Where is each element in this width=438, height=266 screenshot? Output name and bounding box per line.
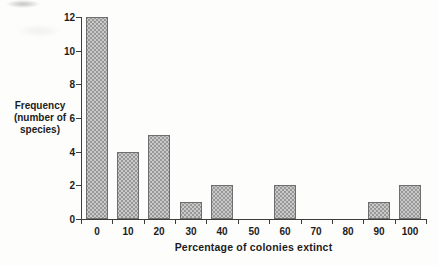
bar-100	[399, 185, 421, 219]
x-tick	[81, 220, 82, 224]
x-tick-label: 60	[270, 226, 300, 237]
bar-60	[274, 185, 296, 219]
y-tick-label: 12	[45, 12, 75, 23]
bar-90	[368, 202, 390, 219]
x-tick-label: 100	[395, 226, 425, 237]
x-tick	[206, 220, 207, 224]
scan-artifact	[16, 24, 62, 38]
x-tick-label: 0	[82, 226, 112, 237]
y-axis-title-line: species)	[2, 124, 78, 136]
y-tick	[76, 51, 81, 52]
x-tick-label: 20	[144, 226, 174, 237]
x-tick-label: 70	[301, 226, 331, 237]
y-tick-label: 4	[45, 147, 75, 158]
bar-0	[86, 17, 108, 219]
y-tick-label: 10	[45, 46, 75, 57]
figure: Frequency (number of species) Percentage…	[0, 0, 438, 266]
y-tick	[76, 84, 81, 85]
x-tick	[332, 220, 333, 224]
bar-30	[180, 202, 202, 219]
y-tick-label: 2	[45, 180, 75, 191]
x-tick	[426, 220, 427, 224]
y-tick	[76, 185, 81, 186]
x-tick	[175, 220, 176, 224]
y-tick	[76, 118, 81, 119]
bar-20	[148, 135, 170, 219]
y-tick	[76, 152, 81, 153]
x-tick	[269, 220, 270, 224]
bar-40	[211, 185, 233, 219]
x-tick	[301, 220, 302, 224]
y-tick-label: 6	[45, 113, 75, 124]
x-tick-label: 10	[113, 226, 143, 237]
y-axis-line	[81, 17, 82, 220]
x-tick-label: 90	[364, 226, 394, 237]
y-tick-label: 0	[45, 214, 75, 225]
y-axis-title-line: Frequency	[2, 100, 78, 112]
scan-artifact	[6, 0, 40, 8]
x-tick-label: 40	[207, 226, 237, 237]
x-tick	[363, 220, 364, 224]
x-tick	[112, 220, 113, 224]
x-tick-label: 50	[239, 226, 269, 237]
x-tick-label: 30	[176, 226, 206, 237]
bar-10	[117, 152, 139, 219]
x-tick-label: 80	[333, 226, 363, 237]
x-axis-title: Percentage of colonies extinct	[81, 241, 426, 253]
x-tick	[395, 220, 396, 224]
x-tick	[238, 220, 239, 224]
x-axis-line	[81, 219, 427, 220]
y-tick	[76, 17, 81, 18]
y-tick-label: 8	[45, 79, 75, 90]
x-tick	[144, 220, 145, 224]
